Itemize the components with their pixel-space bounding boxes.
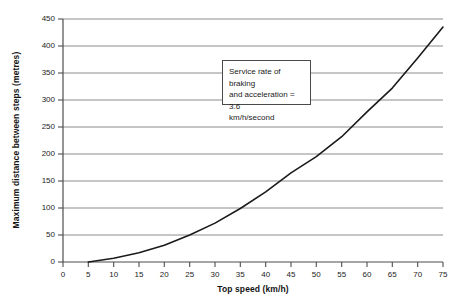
x-tick-40: 40: [254, 270, 278, 280]
x-tick-25: 25: [178, 270, 202, 280]
y-tick-250: 250: [25, 122, 55, 132]
y-tick-350: 350: [25, 68, 55, 78]
annotation-line-1: Service rate of braking: [229, 66, 304, 89]
y-tick-400: 400: [25, 41, 55, 51]
y-tick-0: 0: [25, 257, 55, 267]
y-tick-100: 100: [25, 203, 55, 213]
annotation-line-3: km/h/second: [229, 112, 304, 124]
y-axis-ticks: [58, 19, 63, 262]
annotation-line-2: and acceleration = 3.6: [229, 89, 304, 112]
x-tick-0: 0: [51, 270, 75, 280]
grid-lines: [63, 19, 443, 235]
x-axis-title: Top speed (km/h): [63, 283, 443, 295]
x-tick-55: 55: [330, 270, 354, 280]
y-axis-title: Maximum distance between steps (metres): [9, 10, 23, 270]
x-tick-70: 70: [406, 270, 430, 280]
chart-figure: Maximum distance between steps (metres) …: [0, 0, 460, 304]
x-tick-20: 20: [152, 270, 176, 280]
x-tick-65: 65: [380, 270, 404, 280]
x-axis-ticks: [63, 262, 443, 267]
y-tick-300: 300: [25, 95, 55, 105]
x-tick-45: 45: [279, 270, 303, 280]
y-tick-150: 150: [25, 176, 55, 186]
y-tick-450: 450: [25, 14, 55, 24]
x-tick-10: 10: [102, 270, 126, 280]
x-tick-50: 50: [304, 270, 328, 280]
y-tick-200: 200: [25, 149, 55, 159]
x-tick-5: 5: [76, 270, 100, 280]
x-tick-60: 60: [355, 270, 379, 280]
x-tick-15: 15: [127, 270, 151, 280]
annotation-box: Service rate of braking and acceleration…: [222, 60, 311, 105]
x-tick-30: 30: [203, 270, 227, 280]
y-tick-50: 50: [25, 230, 55, 240]
plot-area: [0, 0, 460, 304]
x-tick-75: 75: [431, 270, 455, 280]
x-tick-35: 35: [228, 270, 252, 280]
